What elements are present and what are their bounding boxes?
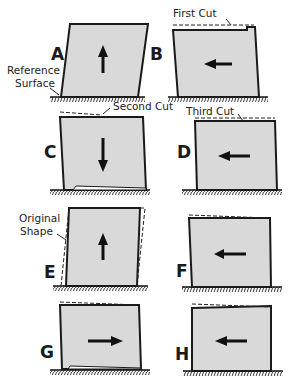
first-cut-caption: First Cut — [173, 7, 217, 19]
leader-line — [50, 88, 59, 95]
panel-b: B First Cut — [150, 7, 268, 102]
panel-g: G — [40, 302, 150, 375]
original-shape-caption-1: Original — [19, 212, 60, 224]
block-g — [60, 305, 141, 369]
panel-c: C Second Cut — [44, 100, 173, 195]
panel-a: A Reference Surface — [7, 24, 148, 102]
panel-label-c: C — [44, 142, 56, 162]
panel-label-e: E — [44, 262, 56, 282]
panel-label-h: H — [175, 344, 189, 364]
panel-f: F — [176, 215, 282, 292]
block-h — [192, 306, 271, 371]
panel-h: H — [175, 304, 283, 376]
panel-label-d: D — [177, 142, 191, 162]
panel-label-g: G — [40, 342, 54, 362]
second-cut-caption: Second Cut — [113, 100, 173, 112]
panel-d: D Third Cut — [177, 105, 282, 195]
third-cut-caption: Third Cut — [185, 105, 234, 117]
original-shape-caption-2: Shape — [20, 225, 53, 237]
panel-label-f: F — [176, 261, 188, 281]
reference-surface-caption-2: Surface — [15, 77, 55, 89]
panel-label-a: A — [51, 44, 65, 64]
squaring-procedure-diagram: A Reference Surface B First Cut C Second… — [0, 0, 291, 388]
panel-label-b: B — [150, 44, 163, 64]
reference-surface-caption-1: Reference — [7, 64, 60, 76]
panel-e: E Original Shape — [19, 208, 148, 291]
